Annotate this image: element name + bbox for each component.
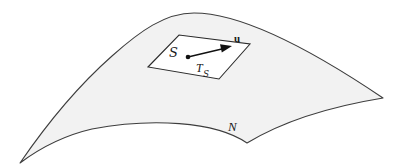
- surface-shape: [20, 13, 383, 163]
- tangent-plane-label-subscript: S: [203, 69, 209, 79]
- point-s-label: S: [169, 46, 178, 59]
- tangent-plane-figure: S u TS N: [0, 0, 403, 167]
- tangent-plane-label-base: T: [196, 61, 203, 75]
- surface-label: N: [228, 120, 237, 133]
- figure-canvas: [0, 0, 403, 167]
- point-s-dot: [186, 55, 191, 60]
- tangent-vector-label: u: [234, 33, 240, 44]
- tangent-plane-label: TS: [196, 62, 209, 77]
